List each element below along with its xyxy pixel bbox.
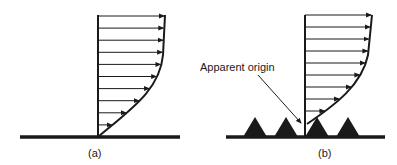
velocity-arrows-b bbox=[305, 15, 371, 111]
roughness-elements bbox=[243, 117, 360, 137]
apparent-origin-label: Apparent origin bbox=[200, 61, 275, 73]
diagram-canvas bbox=[0, 0, 397, 165]
velocity-profile-b bbox=[307, 15, 372, 124]
roughness-element bbox=[336, 117, 360, 137]
caption-a: (a) bbox=[88, 147, 101, 159]
annotation-leader-line bbox=[258, 75, 301, 123]
caption-b: (b) bbox=[318, 147, 331, 159]
roughness-element bbox=[274, 117, 298, 137]
roughness-element bbox=[305, 117, 329, 137]
panel-a bbox=[20, 15, 180, 137]
roughness-element bbox=[243, 117, 267, 137]
panel-b bbox=[226, 15, 385, 137]
